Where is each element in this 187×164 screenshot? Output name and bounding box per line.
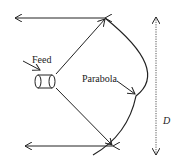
feed-ray-upper bbox=[56, 19, 105, 74]
parabola-label: Parabola bbox=[82, 73, 118, 84]
feed-ray-lower bbox=[56, 88, 112, 145]
feed-label: Feed bbox=[32, 54, 51, 65]
feed-horn-icon bbox=[35, 75, 55, 88]
antenna-diagram: Feed Parabola D bbox=[0, 0, 187, 164]
diameter-label: D bbox=[162, 115, 171, 126]
parabola-pointer-arrow bbox=[117, 81, 135, 94]
